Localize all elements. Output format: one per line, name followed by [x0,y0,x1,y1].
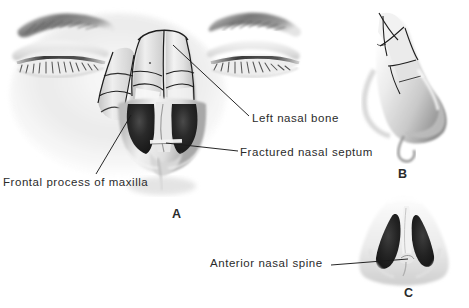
label-frontal-process-of-maxilla: Frontal process of maxilla [3,177,148,189]
label-left-nasal-bone: Left nasal bone [252,113,339,125]
nasal-bone-complex [130,30,196,104]
panel-letter-a: A [172,208,182,221]
nasal-fracture-figure: Left nasal bone Fractured nasal septum F… [0,0,469,308]
panel-letter-b: B [398,168,408,181]
panel-letter-c: C [404,287,414,300]
label-anterior-nasal-spine: Anterior nasal spine [210,258,323,270]
label-fractured-nasal-septum: Fractured nasal septum [240,147,373,159]
